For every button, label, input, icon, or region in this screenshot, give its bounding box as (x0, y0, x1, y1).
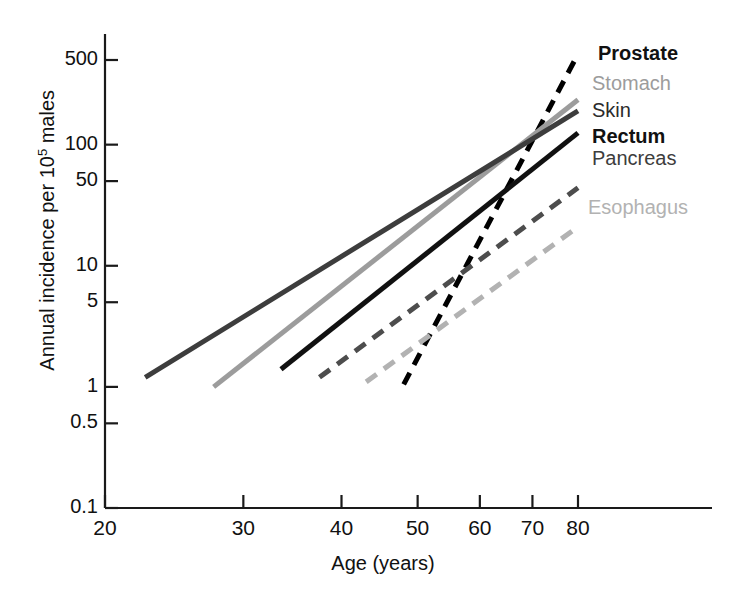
chart-figure: Annual incidence per 105 males Age (year… (0, 0, 732, 607)
legend-label-stomach: Stomach (592, 72, 671, 95)
x-tick-label: 50 (392, 516, 444, 540)
y-tick-label: 5 (34, 289, 98, 312)
legend-label-esophagus: Esophagus (588, 196, 688, 219)
y-tick-label: 500 (34, 47, 98, 70)
y-tick-label: 0.5 (34, 410, 98, 433)
x-axis-label: Age (years) (293, 552, 473, 575)
y-tick-label: 0.1 (34, 495, 98, 518)
y-tick-label: 1 (34, 374, 98, 397)
y-tick-label: 50 (34, 168, 98, 191)
x-tick-label: 40 (316, 516, 368, 540)
y-axis-label: Annual incidence per 105 males (35, 65, 60, 395)
y-tick-label: 10 (34, 253, 98, 276)
legend-label-prostate: Prostate (598, 42, 678, 65)
x-tick-label: 30 (217, 516, 269, 540)
x-tick-label: 80 (552, 516, 604, 540)
series-line-esophagus (366, 227, 578, 382)
series-line-pancreas (319, 188, 578, 377)
x-tick-label: 70 (506, 516, 558, 540)
series-line-skin (145, 111, 578, 377)
x-tick-label: 60 (454, 516, 506, 540)
x-tick-label: 20 (79, 516, 131, 540)
legend-label-pancreas: Pancreas (592, 147, 677, 170)
legend-label-rectum: Rectum (592, 125, 665, 148)
y-tick-label: 100 (34, 132, 98, 155)
legend-label-skin: Skin (592, 99, 631, 122)
